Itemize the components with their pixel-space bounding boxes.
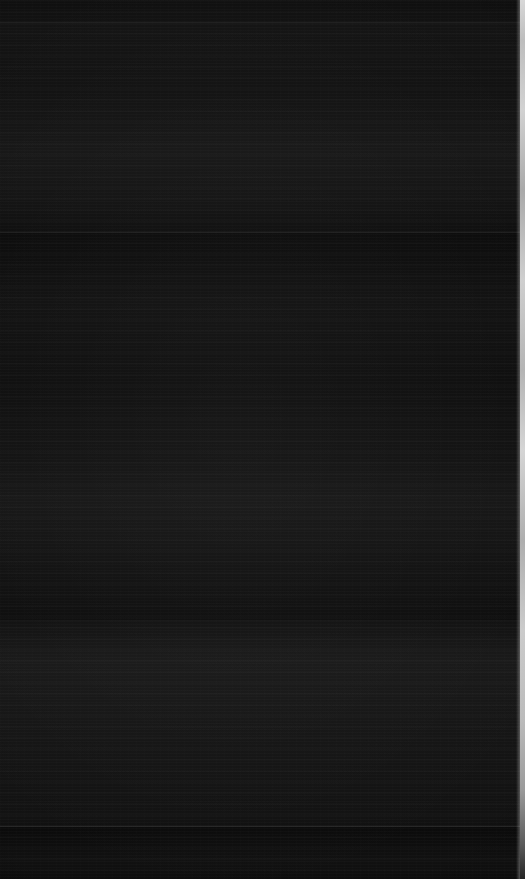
right-edge-strip[interactable] [520, 0, 525, 879]
screen-background [0, 0, 525, 879]
screen-capture [0, 0, 525, 879]
